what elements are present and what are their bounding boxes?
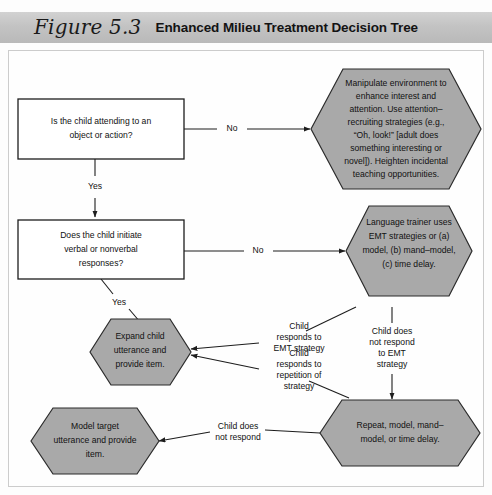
figure-banner-inner: Figure 5.3 Enhanced Milieu Treatment Dec… bbox=[34, 12, 418, 43]
node-a1-line-0: Manipulate environment to bbox=[345, 78, 446, 88]
node-expand-line-0: Expand child bbox=[115, 331, 164, 341]
edge-label-repeat-model-0: Child does bbox=[218, 421, 259, 431]
node-q1-line-0: Is the child attending to an bbox=[51, 116, 152, 126]
edge-label-a2-repeat-2: to EMT bbox=[378, 348, 406, 358]
node-a1-line-5: something interesting or bbox=[350, 143, 442, 153]
edge-a2-expand: Child responds to EMT strategy bbox=[191, 307, 356, 353]
edge-label-q2-yes: Yes bbox=[112, 297, 126, 307]
edge-label-repeat-expand-1: responds to bbox=[277, 359, 322, 369]
node-modeltarget-line-2: item. bbox=[86, 449, 105, 459]
node-modeltarget-line-1: utterance and provide bbox=[53, 435, 136, 445]
node-repeat-shape bbox=[320, 400, 480, 466]
edge-label-q2-no: No bbox=[253, 245, 264, 255]
node-a2-line-1: EMT strategies or (a) bbox=[369, 231, 450, 241]
edge-label-a2-expand-0: Child bbox=[289, 321, 309, 331]
node-modeltarget-line-0: Model target bbox=[71, 421, 119, 431]
node-a1[interactable]: Manipulate environment to enhance intere… bbox=[311, 69, 481, 189]
node-q1-shape bbox=[18, 99, 184, 159]
node-q1[interactable]: Is the child attending to an object or a… bbox=[18, 99, 184, 159]
edge-a2-repeat: Child does not respond to EMT strategy bbox=[369, 307, 415, 399]
node-a1-line-1: enhance interest and bbox=[356, 91, 436, 101]
node-a2-line-2: model, (b) mand–model, bbox=[362, 245, 455, 255]
edge-q1-yes: Yes bbox=[88, 159, 102, 217]
node-expand-line-1: utterance and bbox=[114, 345, 167, 355]
edge-label-repeat-expand-2: repetition of bbox=[277, 370, 323, 380]
figure-number: Figure 5.3 bbox=[34, 17, 142, 37]
node-a1-line-4: “Oh, look!” [adult does bbox=[354, 130, 439, 140]
node-a1-line-2: attention. Use attention– bbox=[349, 104, 442, 114]
edge-q1-no: No bbox=[184, 123, 310, 133]
node-a1-line-6: novel]). Heighten incidental bbox=[344, 156, 448, 166]
edge-repeat-expand: Child responds to repetition of strategy bbox=[191, 348, 349, 398]
node-q2-line-2: responses? bbox=[79, 258, 124, 268]
edge-label-q1-yes: Yes bbox=[88, 181, 102, 191]
edge-repeat-model: Child does not respond bbox=[159, 421, 320, 442]
edge-label-a2-repeat-1: not respond bbox=[369, 337, 415, 347]
node-a2-line-0: Language trainer uses bbox=[366, 217, 452, 227]
edge-label-a2-repeat-3: strategy bbox=[377, 359, 408, 369]
diagram-frame: No Yes No Yes bbox=[8, 50, 484, 487]
node-expand[interactable]: Expand child utterance and provide item. bbox=[90, 319, 191, 385]
node-q2[interactable]: Does the child initiate verbal or nonver… bbox=[18, 220, 184, 279]
edge-label-a2-expand-1: responds to bbox=[277, 332, 322, 342]
edge-label-repeat-expand-0: Child bbox=[289, 348, 309, 358]
node-a1-line-3: recruiting strategies (e.g., bbox=[348, 117, 445, 127]
node-repeat-line-0: Repeat, model, mand– bbox=[357, 420, 444, 430]
node-expand-line-2: provide item. bbox=[115, 359, 164, 369]
node-a1-line-7: teaching opportunities. bbox=[353, 169, 439, 179]
node-q2-line-0: Does the child initiate bbox=[60, 230, 142, 240]
figure-page: Figure 5.3 Enhanced Milieu Treatment Dec… bbox=[0, 0, 492, 495]
figure-title: Enhanced Milieu Treatment Decision Tree bbox=[156, 21, 418, 35]
node-q2-line-1: verbal or nonverbal bbox=[64, 244, 138, 254]
edge-label-repeat-expand-3: strategy bbox=[284, 381, 315, 391]
edge-label-q1-no: No bbox=[227, 123, 238, 133]
figure-banner: Figure 5.3 Enhanced Milieu Treatment Dec… bbox=[0, 12, 492, 43]
node-a2[interactable]: Language trainer uses EMT strategies or … bbox=[346, 206, 472, 296]
edge-label-repeat-model-1: not respond bbox=[215, 432, 261, 442]
node-q1-line-1: object or action? bbox=[69, 130, 132, 140]
decision-tree-diagram: No Yes No Yes bbox=[9, 51, 483, 486]
node-repeat-line-1: model, or time delay. bbox=[360, 434, 439, 444]
node-modeltarget[interactable]: Model target utterance and provide item. bbox=[31, 408, 159, 474]
node-repeat[interactable]: Repeat, model, mand– model, or time dela… bbox=[320, 400, 480, 466]
node-a2-line-3: (c) time delay. bbox=[382, 259, 435, 269]
edge-label-a2-repeat-0: Child does bbox=[372, 326, 413, 336]
edge-q2-no: No bbox=[184, 245, 345, 255]
